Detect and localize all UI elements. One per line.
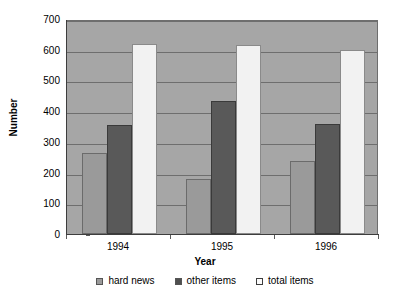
y-tick-label: 700	[24, 15, 60, 25]
bar-total-items-1996	[340, 50, 365, 234]
y-tick-label: 600	[24, 46, 60, 56]
y-tick-label: 400	[24, 107, 60, 117]
bar-total-items-1994	[132, 44, 157, 234]
legend-item-hard-news: hard news	[96, 276, 154, 286]
plot-area	[66, 20, 378, 235]
x-tick-mark	[378, 235, 379, 239]
legend-label: other items	[187, 276, 236, 286]
y-tick-label: 300	[24, 138, 60, 148]
x-tick-label: 1994	[66, 241, 170, 253]
bar-other-items-1994	[107, 125, 132, 234]
y-tick-mark	[86, 235, 90, 236]
bar-chart: Number 0100200300400500600700 1994199519…	[0, 0, 410, 299]
y-axis-tick-labels: 0100200300400500600700	[24, 20, 60, 235]
x-tick-label: 1996	[274, 241, 378, 253]
bar-total-items-1995	[236, 45, 261, 235]
legend-swatch-icon	[175, 278, 182, 285]
x-axis-title: Year	[0, 256, 410, 267]
bars-layer	[67, 21, 377, 234]
x-tick-label: 1995	[170, 241, 274, 253]
y-tick-label: 100	[24, 199, 60, 209]
legend-label: total items	[268, 276, 314, 286]
y-axis-title: Number	[8, 73, 19, 163]
bar-hard-news-1996	[290, 161, 315, 234]
x-tick-mark	[170, 235, 171, 239]
x-axis-line	[66, 234, 379, 235]
bar-other-items-1995	[211, 101, 236, 234]
y-axis-line	[66, 20, 67, 235]
x-tick-mark	[66, 235, 67, 239]
legend-swatch-icon	[96, 278, 103, 285]
chart-legend: hard newsother itemstotal items	[0, 276, 410, 286]
legend-item-total-items: total items	[256, 276, 314, 286]
legend-label: hard news	[108, 276, 154, 286]
legend-swatch-icon	[256, 278, 263, 285]
bar-other-items-1996	[315, 124, 340, 234]
y-tick-label: 200	[24, 169, 60, 179]
bar-hard-news-1995	[186, 179, 211, 234]
y-tick-label: 500	[24, 76, 60, 86]
bar-hard-news-1994	[82, 153, 107, 234]
legend-item-other-items: other items	[175, 276, 236, 286]
x-tick-mark	[274, 235, 275, 239]
y-tick-label: 0	[24, 230, 60, 240]
